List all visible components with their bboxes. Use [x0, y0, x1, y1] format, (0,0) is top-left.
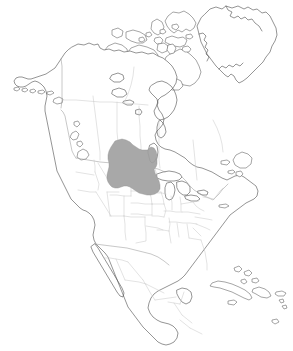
bahamas-island-2	[244, 270, 252, 276]
aleutian-island-2	[22, 88, 28, 92]
costa-rica-border	[180, 320, 190, 328]
puerto-rico-island	[275, 291, 286, 296]
province-border-qc-nl	[213, 120, 223, 152]
prince-edward-island	[228, 170, 235, 174]
hispaniola-island	[252, 287, 271, 298]
anticosti-island	[221, 160, 230, 165]
north-america-map	[0, 0, 293, 351]
trinidad-island	[272, 319, 279, 324]
arctic-small-island-5	[186, 34, 193, 39]
arctic-small-island-3	[160, 29, 166, 34]
mexico-state-border-7	[155, 297, 176, 300]
bylot-island	[182, 46, 191, 52]
aleutian-island-3	[30, 89, 36, 93]
mainland-layer	[14, 43, 258, 345]
caribbean-layer	[210, 266, 287, 324]
lesser-antilles-1	[279, 299, 284, 303]
map-container	[0, 0, 293, 351]
jamaica-island	[228, 300, 237, 305]
cornwallis-island	[154, 37, 163, 44]
lesser-antilles-2	[282, 305, 287, 309]
panama-border	[190, 328, 202, 334]
honduras-border	[174, 303, 182, 315]
bahamas-island-1	[234, 266, 242, 272]
nicaragua-border	[182, 315, 192, 323]
ellesmere-island	[165, 11, 196, 33]
north-america-mainland-outline	[14, 43, 258, 345]
greenland-layer	[197, 6, 277, 83]
bahamas-island-4	[241, 279, 247, 284]
distribution-range-layer	[107, 139, 160, 195]
aleutian-island-1	[14, 87, 20, 91]
greenland-outline	[197, 6, 277, 83]
prince-of-wales-island	[157, 43, 168, 53]
bahamas-island-3	[252, 278, 259, 283]
prince-patrick-island	[112, 28, 123, 38]
newfoundland-island	[233, 152, 252, 168]
yucatan-peninsula	[177, 288, 192, 304]
aleutian-island-4	[38, 90, 45, 94]
arctic-small-island-1	[146, 32, 152, 37]
cuba-island	[210, 281, 252, 300]
